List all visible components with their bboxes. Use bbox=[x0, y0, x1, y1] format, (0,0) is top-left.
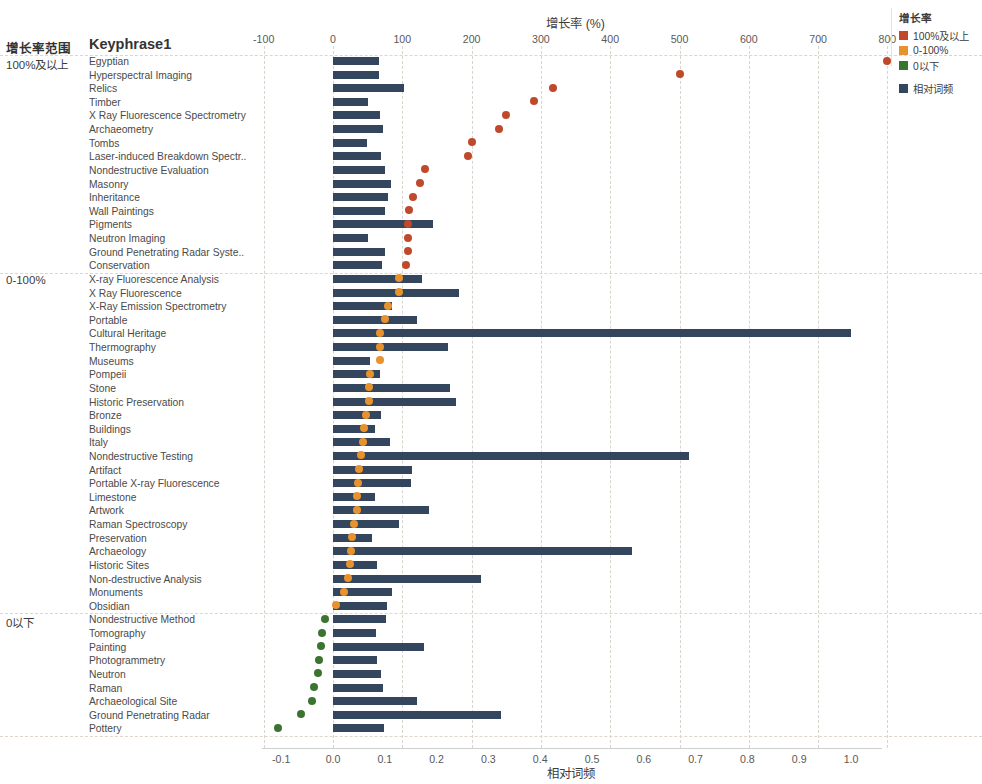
bar bbox=[333, 125, 383, 133]
bar bbox=[333, 193, 388, 201]
keyphrase-label: Portable bbox=[89, 316, 127, 326]
bar bbox=[333, 684, 383, 692]
keyphrase-label: Museums bbox=[89, 357, 134, 367]
keyphrase-label: Portable X-ray Fluorescence bbox=[89, 479, 220, 489]
legend-item-growth[interactable]: 100%及以上 bbox=[899, 28, 982, 42]
bar bbox=[333, 575, 481, 583]
legend-label: 相对词频 bbox=[913, 81, 953, 96]
bar bbox=[333, 329, 851, 337]
bar bbox=[333, 656, 377, 664]
bar bbox=[333, 398, 456, 406]
bar bbox=[333, 602, 387, 610]
keyphrase-label: X Ray Fluorescence bbox=[89, 289, 182, 299]
keyphrase-label: Pompeii bbox=[89, 370, 126, 380]
growth-rate-dot bbox=[310, 683, 318, 691]
bar bbox=[333, 111, 380, 119]
top-axis-tick-label: 500 bbox=[671, 33, 689, 45]
gridline bbox=[610, 46, 611, 748]
growth-rate-dot bbox=[402, 261, 410, 269]
keyphrase-label: Archaeometry bbox=[89, 125, 153, 135]
column-header-keyphrase: Keyphrase1 bbox=[89, 36, 171, 52]
growth-rate-dot bbox=[314, 669, 322, 677]
bar bbox=[333, 479, 411, 487]
growth-rate-dot bbox=[321, 615, 329, 623]
keyphrase-label: Ground Penetrating Radar Syste.. bbox=[89, 248, 244, 258]
keyphrase-label: Buildings bbox=[89, 425, 131, 435]
legend-items: 100%及以上0-100%0以下相对词频 bbox=[899, 28, 982, 95]
bar bbox=[333, 316, 417, 324]
growth-rate-dot bbox=[495, 125, 503, 133]
bottom-axis-tick-label: -0.1 bbox=[272, 753, 290, 765]
legend-label: 0以下 bbox=[913, 58, 939, 73]
bottom-axis-tick-label: 0.2 bbox=[429, 753, 444, 765]
gridline bbox=[472, 46, 473, 748]
bar bbox=[333, 711, 501, 719]
keyphrase-label: Neutron Imaging bbox=[89, 234, 165, 244]
growth-rate-dot bbox=[405, 206, 413, 214]
legend-item-growth[interactable]: 0-100% bbox=[899, 43, 982, 57]
legend-swatch bbox=[899, 61, 908, 70]
keyphrase-label: Archaeological Site bbox=[89, 697, 177, 707]
growth-rate-dot bbox=[274, 724, 282, 732]
legend-swatch bbox=[899, 84, 908, 93]
group-range-label: 0-100% bbox=[6, 274, 46, 286]
bar bbox=[333, 71, 379, 79]
keyphrase-label: Neutron bbox=[89, 670, 126, 680]
bar bbox=[333, 561, 377, 569]
growth-rate-dot bbox=[308, 697, 316, 705]
keyphrase-label: Raman Spectroscopy bbox=[89, 520, 187, 530]
keyphrase-label: Artwork bbox=[89, 506, 124, 516]
growth-rate-dot bbox=[421, 165, 429, 173]
bar bbox=[333, 57, 379, 65]
bottom-axis-tick-label: 0.6 bbox=[636, 753, 651, 765]
growth-rate-dot bbox=[416, 179, 424, 187]
keyphrase-label: Photogrammetry bbox=[89, 656, 165, 666]
top-axis-tick-label: 0 bbox=[330, 33, 336, 45]
top-axis-title: 增长率 (%) bbox=[546, 14, 605, 32]
bar bbox=[333, 98, 368, 106]
keyphrase-label: Painting bbox=[89, 643, 126, 653]
bar bbox=[333, 629, 376, 637]
top-axis-tick-label: 300 bbox=[532, 33, 550, 45]
growth-rate-dot bbox=[350, 520, 358, 528]
keyphrase-label: Pigments bbox=[89, 220, 132, 230]
plot-area: -1000100200300400500600700800 -0.10.00.1… bbox=[262, 0, 882, 784]
bar bbox=[333, 234, 368, 242]
top-axis-tick-label: 700 bbox=[809, 33, 827, 45]
growth-rate-dot bbox=[395, 288, 403, 296]
keyphrase-label: Raman bbox=[89, 684, 122, 694]
legend-label: 100%及以上 bbox=[913, 28, 969, 43]
keyphrase-label: Limestone bbox=[89, 493, 137, 503]
keyphrase-label: Ground Penetrating Radar bbox=[89, 711, 210, 721]
bar bbox=[333, 697, 417, 705]
keyphrase-label: Masonry bbox=[89, 180, 128, 190]
bar bbox=[333, 670, 381, 678]
bottom-axis-tick-label: 0.4 bbox=[533, 753, 548, 765]
top-axis-tick-label: 200 bbox=[463, 33, 481, 45]
gridline bbox=[887, 46, 888, 748]
bar bbox=[333, 139, 367, 147]
keyphrase-label: Historic Preservation bbox=[89, 398, 184, 408]
legend-divider bbox=[891, 8, 892, 66]
growth-rate-dot bbox=[404, 220, 412, 228]
top-axis-tick-label: 400 bbox=[601, 33, 619, 45]
bar bbox=[333, 547, 632, 555]
bottom-axis-tick-label: 1.0 bbox=[844, 753, 859, 765]
legend-item-relative-frequency[interactable]: 相对词频 bbox=[899, 81, 982, 95]
growth-rate-dot bbox=[318, 629, 326, 637]
bottom-axis-tick-label: 0.3 bbox=[481, 753, 496, 765]
growth-rate-dot bbox=[409, 193, 417, 201]
keyphrase-label: Egyptian bbox=[89, 57, 129, 67]
keyphrase-label: Thermography bbox=[89, 343, 156, 353]
bar bbox=[333, 343, 448, 351]
keyphrase-label: Stone bbox=[89, 384, 116, 394]
growth-rate-dot bbox=[315, 656, 323, 664]
keyphrase-label: Obsidian bbox=[89, 602, 130, 612]
bar bbox=[333, 643, 424, 651]
growth-rate-dot bbox=[376, 329, 384, 337]
keyphrase-label: Wall Paintings bbox=[89, 207, 154, 217]
legend-item-growth[interactable]: 0以下 bbox=[899, 58, 982, 72]
bar bbox=[333, 180, 391, 188]
growth-rate-dot bbox=[344, 574, 352, 582]
keyphrase-label: Italy bbox=[89, 438, 108, 448]
